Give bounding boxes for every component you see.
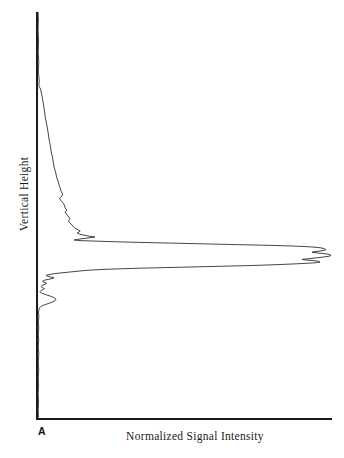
signal-profile-curve [38, 12, 331, 417]
axis-lines [37, 12, 332, 419]
x-axis-title: Normalized Signal Intensity [60, 430, 330, 442]
chart-plot-area [0, 0, 344, 458]
series-group [38, 12, 331, 417]
y-axis-title: Vertical Height [18, 134, 30, 254]
panel-label: A [38, 425, 46, 437]
axes-group [37, 12, 332, 419]
figure-panel: Vertical Height Normalized Signal Intens… [0, 0, 344, 458]
